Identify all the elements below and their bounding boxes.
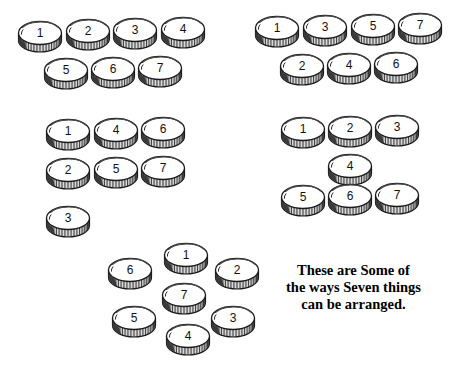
arrangement-group: 12345671357246146257312345671234567	[0, 0, 464, 375]
coin-number-label: 6	[90, 56, 136, 83]
coin-3[interactable]: 3	[302, 14, 348, 48]
coin-number-label: 3	[112, 17, 158, 44]
coin-7[interactable]: 7	[161, 282, 207, 316]
coin-number-label: 2	[327, 115, 373, 142]
coin-2[interactable]: 2	[65, 18, 111, 52]
coin-number-label: 4	[93, 117, 139, 144]
coin-1[interactable]: 1	[45, 118, 91, 152]
coin-number-label: 4	[160, 16, 206, 43]
coin-number-label: 7	[161, 282, 207, 309]
coin-5[interactable]: 5	[93, 156, 139, 190]
coin-2[interactable]: 2	[279, 53, 325, 87]
illustration-canvas: 12345671357246146257312345671234567 Thes…	[0, 0, 464, 375]
coin-6[interactable]: 6	[373, 51, 419, 85]
coin-number-label: 7	[397, 12, 443, 39]
coin-number-label: 6	[140, 116, 186, 143]
coin-number-label: 2	[45, 157, 91, 184]
coin-3[interactable]: 3	[374, 114, 420, 148]
coin-number-label: 7	[374, 182, 420, 209]
coin-3[interactable]: 3	[112, 17, 158, 51]
coin-number-label: 6	[327, 183, 373, 210]
caption-line-3: can be arranged.	[286, 296, 421, 313]
coin-number-label: 3	[210, 305, 256, 332]
caption-line-2: the ways Seven things	[286, 279, 421, 296]
coin-4[interactable]: 4	[165, 323, 211, 357]
coin-4[interactable]: 4	[326, 52, 372, 86]
caption-text: These are Some of the ways Seven things …	[286, 262, 421, 313]
coin-number-label: 5	[43, 57, 89, 84]
coin-3[interactable]: 3	[210, 305, 256, 339]
coin-number-label: 4	[165, 323, 211, 350]
coin-5[interactable]: 5	[43, 57, 89, 91]
coin-5[interactable]: 5	[111, 305, 157, 339]
coin-2[interactable]: 2	[45, 157, 91, 191]
coin-7[interactable]: 7	[374, 182, 420, 216]
coin-number-label: 1	[163, 242, 209, 269]
coin-number-label: 1	[45, 118, 91, 145]
coin-7[interactable]: 7	[137, 55, 183, 89]
coin-number-label: 1	[17, 20, 63, 47]
coin-1[interactable]: 1	[280, 116, 326, 150]
coin-3[interactable]: 3	[45, 205, 91, 239]
coin-number-label: 2	[214, 257, 260, 284]
coin-6[interactable]: 6	[107, 257, 153, 291]
coin-5[interactable]: 5	[350, 13, 396, 47]
coin-number-label: 7	[140, 155, 186, 182]
coin-number-label: 6	[107, 257, 153, 284]
coin-number-label: 1	[280, 116, 326, 143]
coin-number-label: 5	[111, 305, 157, 332]
coin-number-label: 4	[327, 153, 373, 180]
coin-number-label: 3	[374, 114, 420, 141]
caption-line-1: These are Some of	[286, 262, 421, 279]
coin-number-label: 1	[254, 15, 300, 42]
coin-6[interactable]: 6	[327, 183, 373, 217]
coin-number-label: 6	[373, 51, 419, 78]
coin-1[interactable]: 1	[254, 15, 300, 49]
coin-number-label: 2	[65, 18, 111, 45]
coin-number-label: 7	[137, 55, 183, 82]
coin-number-label: 5	[93, 156, 139, 183]
coin-2[interactable]: 2	[327, 115, 373, 149]
coin-4[interactable]: 4	[327, 153, 373, 187]
coin-2[interactable]: 2	[214, 257, 260, 291]
coin-number-label: 5	[350, 13, 396, 40]
coin-number-label: 4	[326, 52, 372, 79]
coin-number-label: 2	[279, 53, 325, 80]
coin-6[interactable]: 6	[140, 116, 186, 150]
coin-7[interactable]: 7	[140, 155, 186, 189]
coin-number-label: 5	[280, 184, 326, 211]
coin-number-label: 3	[45, 205, 91, 232]
coin-6[interactable]: 6	[90, 56, 136, 90]
coin-4[interactable]: 4	[93, 117, 139, 151]
coin-1[interactable]: 1	[17, 20, 63, 54]
coin-4[interactable]: 4	[160, 16, 206, 50]
coin-7[interactable]: 7	[397, 12, 443, 46]
coin-1[interactable]: 1	[163, 242, 209, 276]
coin-number-label: 3	[302, 14, 348, 41]
coin-5[interactable]: 5	[280, 184, 326, 218]
